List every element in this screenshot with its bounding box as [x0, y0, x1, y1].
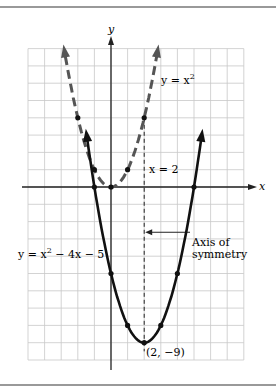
- data-point: [191, 184, 196, 189]
- data-point: [125, 167, 130, 172]
- axis-of-symmetry-label-2: symmetry: [192, 248, 248, 261]
- arrow-icon: [83, 129, 92, 143]
- data-point: [142, 340, 147, 345]
- parabola-chart: y x y = x2 x = 2 Axis of symmetry y = x2…: [0, 0, 276, 389]
- x-axis-arrow-icon: [248, 184, 257, 190]
- data-point: [75, 115, 80, 120]
- grid: [28, 49, 244, 360]
- y-axis-label: y: [107, 23, 115, 36]
- x-axis-label: x: [259, 180, 266, 193]
- data-point: [92, 184, 97, 189]
- data-point: [108, 271, 113, 276]
- y-axis-arrow-icon: [108, 36, 114, 45]
- vertex-label: (2, −9): [146, 346, 185, 359]
- data-point: [92, 167, 97, 172]
- data-point: [125, 323, 130, 328]
- arrow-icon: [196, 129, 205, 143]
- data-point: [175, 271, 180, 276]
- axis-pointer-arrow-icon: [145, 229, 152, 235]
- axes: [22, 36, 257, 370]
- data-point: [158, 323, 163, 328]
- data-point: [142, 115, 147, 120]
- arrow-icon: [61, 45, 70, 59]
- labels: y x y = x2 x = 2 Axis of symmetry y = x2…: [17, 23, 266, 359]
- line-x2-label: x = 2: [149, 163, 178, 176]
- curves: [61, 45, 205, 352]
- arrow-icon: [152, 45, 161, 59]
- parabola2-label: y = x2 − 4x − 5: [17, 246, 104, 261]
- parabola1-label: y = x2: [160, 72, 195, 87]
- figure: y x y = x2 x = 2 Axis of symmetry y = x2…: [0, 0, 276, 389]
- data-point: [108, 184, 113, 189]
